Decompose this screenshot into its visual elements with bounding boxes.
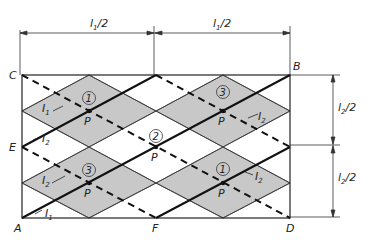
p-label: P [84,115,91,128]
dimension-l1-half-right: l1/2 [213,17,231,32]
corner-label-e: E [9,141,16,154]
current-label-i1: I1 [45,207,53,222]
lattice-diagram: P P P P P 1 3 2 3 1 I1 I2 I2 I1 I2 I2 C … [0,0,376,246]
p-label: P [218,115,225,128]
corner-label-c: C [9,69,17,82]
p-label: P [84,187,91,200]
region-label-2: 2 [153,131,159,142]
region-label-3b: 3 [86,165,92,176]
region-label-3: 3 [220,87,226,98]
p-label: P [218,187,225,200]
right-dimension [290,75,340,217]
dimension-l1-half-left: l1/2 [90,17,108,32]
corner-label-b: B [293,60,301,73]
region-label-1: 1 [86,93,92,104]
corner-label-f: F [152,222,159,235]
dimension-l2-half-lower: l2/2 [338,171,356,186]
p-label: P [151,151,158,164]
top-dimension [20,26,290,75]
region-label-1b: 1 [220,164,226,175]
dimension-l2-half-upper: l2/2 [338,101,356,116]
corner-label-d: D [286,222,294,235]
corner-label-a: A [13,222,22,235]
